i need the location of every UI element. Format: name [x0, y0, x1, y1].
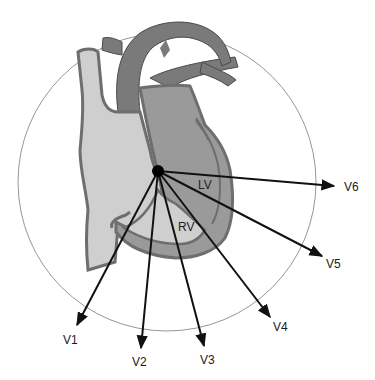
lead-label-v3: V3 [200, 353, 215, 367]
lead-label-v2: V2 [132, 355, 147, 369]
heart-illustration [78, 22, 238, 270]
pulmonary-artery-right-branch [102, 37, 122, 55]
lead-label-v4: V4 [273, 320, 288, 334]
chamber-label-rv: RV [178, 220, 194, 234]
electrical-center-dot [152, 165, 164, 177]
lead-label-v1: V1 [63, 333, 78, 347]
ecg-precordial-diagram: LV RV V1 V2 V3 V4 V5 V6 [0, 0, 375, 380]
lead-label-v6: V6 [344, 180, 359, 194]
chamber-label-lv: LV [198, 178, 212, 192]
lead-label-v5: V5 [326, 257, 341, 271]
